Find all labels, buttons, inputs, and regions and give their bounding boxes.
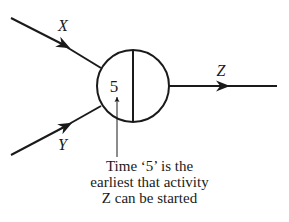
- activity-y-arrow: [11, 106, 101, 155]
- annotation-line-1: Time ‘5’ is the: [0, 158, 289, 174]
- annotation-line-3: Z can be started: [0, 190, 289, 206]
- annotation-caption: Time ‘5’ is the earliest that activity Z…: [0, 158, 289, 206]
- activity-x-label: X: [57, 17, 69, 34]
- annotation-line-2: earliest that activity: [0, 174, 289, 190]
- activity-x-arrow: [11, 18, 101, 68]
- activity-z-label: Z: [217, 62, 227, 79]
- earliest-time-value: 5: [110, 77, 119, 96]
- event-node: [97, 50, 169, 122]
- activity-y-label: Y: [58, 136, 69, 153]
